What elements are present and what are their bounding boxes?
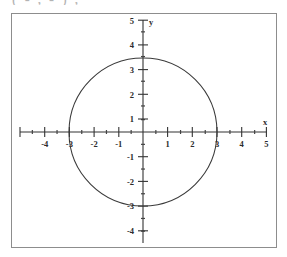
cropped-handwriting-fragment: ( - , - ) , (12, 0, 132, 5)
plot-frame-border (11, 13, 277, 248)
scanned-page: ( - , - ) , (0, 0, 287, 257)
